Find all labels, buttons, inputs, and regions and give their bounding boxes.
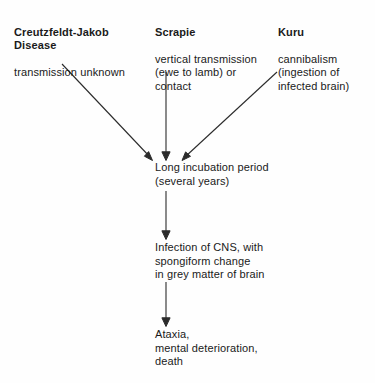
source-block-scrapie: Scrapie vertical transmission (ewe to la… <box>155 12 273 107</box>
arrow-incubation-to-cns <box>162 191 170 240</box>
diagram-canvas: Creutzfeldt-Jakob Disease transmission u… <box>0 0 375 383</box>
source-heading-scrapie: Scrapie <box>155 26 273 40</box>
source-body-kuru: cannibalism (ingestion of infected brain… <box>278 53 374 94</box>
source-block-kuru: Kuru cannibalism (ingestion of infected … <box>278 12 374 107</box>
source-block-cjd: Creutzfeldt-Jakob Disease transmission u… <box>14 12 154 94</box>
stage-block-cns-infection: Infection of CNS, with spongiform change… <box>155 241 315 282</box>
source-heading-cjd: Creutzfeldt-Jakob Disease <box>14 26 154 53</box>
source-body-scrapie: vertical transmission (ewe to lamb) or c… <box>155 53 273 94</box>
source-body-cjd: transmission unknown <box>14 66 154 80</box>
arrow-cns-to-outcome <box>162 282 170 327</box>
stage-block-incubation: Long incubation period (several years) <box>155 161 305 188</box>
source-heading-kuru: Kuru <box>278 26 374 40</box>
stage-block-outcome: Ataxia, mental deterioration, death <box>155 328 315 369</box>
